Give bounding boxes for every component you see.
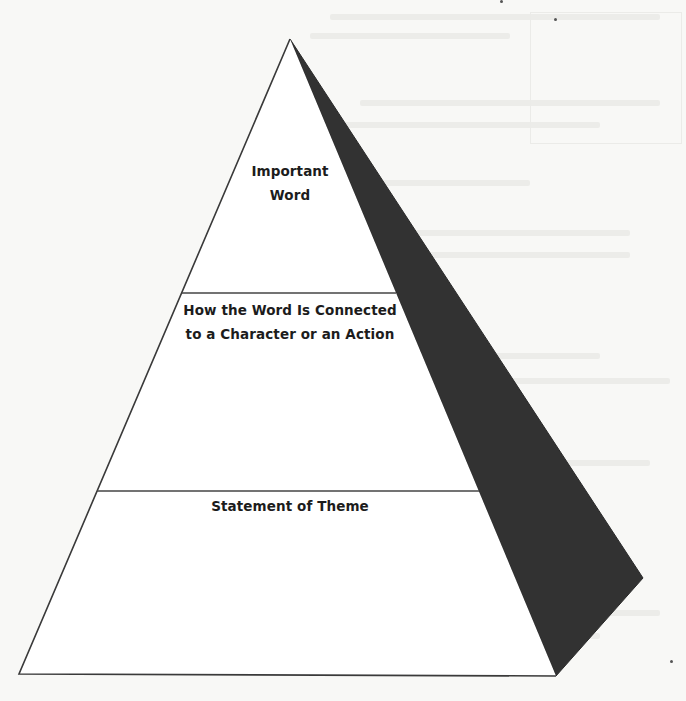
worksheet-page: Important Word How the Word Is Connected… [0, 0, 686, 701]
scan-speck [500, 0, 503, 3]
pyramid-diagram [0, 0, 686, 701]
label-line: How the Word Is Connected [170, 298, 410, 322]
label-line: Word [200, 183, 380, 207]
scan-speck [670, 660, 673, 663]
level-label-word-connection: How the Word Is Connected to a Character… [170, 298, 410, 346]
level-label-statement-of-theme: Statement of Theme [180, 494, 400, 518]
label-line: Important [200, 159, 380, 183]
label-line: Statement of Theme [180, 494, 400, 518]
scan-speck [554, 18, 557, 21]
label-line: to a Character or an Action [170, 322, 410, 346]
level-label-important-word: Important Word [200, 159, 380, 207]
